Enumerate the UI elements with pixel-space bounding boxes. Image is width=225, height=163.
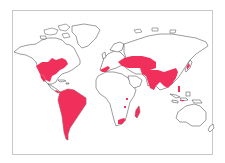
indonesia [170,92,202,103]
australia [176,104,206,126]
siberian-islands [134,28,176,33]
range-south-america [58,89,86,140]
arctic-islands [40,24,70,39]
new-zealand [208,124,214,132]
caribbean-islands [58,80,69,84]
scandinavia [110,42,124,52]
range-philippines [178,86,180,92]
greenland [72,24,100,48]
world-map [0,0,225,163]
range-indonesia [180,100,184,101]
